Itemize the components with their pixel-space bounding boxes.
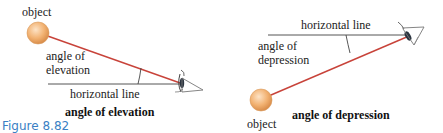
- depression-object-ball: [250, 89, 272, 111]
- elevation-title: angle of elevation: [65, 105, 155, 119]
- elevation-angle-arc: [138, 68, 141, 84]
- depression-angle-label-line2: depression: [258, 53, 309, 67]
- depression-title: angle of depression: [292, 108, 390, 122]
- elevation-angle-label-line2: elevation: [46, 63, 90, 77]
- elevation-object-ball: [27, 22, 49, 44]
- elevation-object-label: object: [22, 5, 52, 19]
- elevation-panel: object angle of elevation horizontal lin…: [22, 5, 203, 119]
- depression-object-label: object: [247, 117, 277, 131]
- diagram-canvas: object angle of elevation horizontal lin…: [0, 0, 443, 133]
- depression-angle-label-line1: angle of: [258, 39, 297, 53]
- eye-icon: [398, 22, 424, 45]
- depression-panel: horizontal line angle of depression obje…: [247, 18, 424, 131]
- depression-angle-arc: [346, 35, 350, 53]
- elevation-angle-label-line1: angle of: [46, 49, 85, 63]
- eye-icon: [175, 70, 203, 92]
- figure-caption: Figure 8.82: [2, 119, 69, 133]
- depression-horizontal-label: horizontal line: [301, 18, 371, 32]
- elevation-horizontal-label: horizontal line: [70, 87, 140, 101]
